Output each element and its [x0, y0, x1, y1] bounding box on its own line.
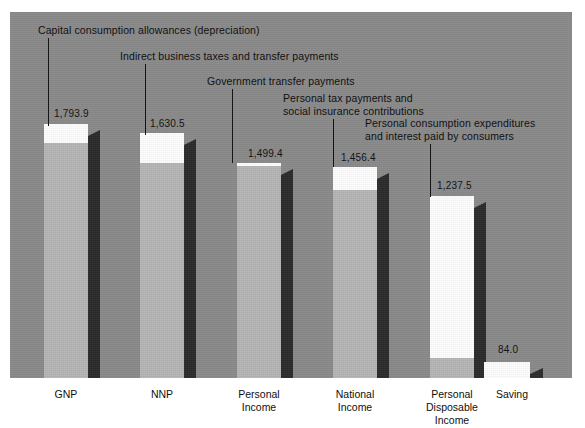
bar-personal-income-front-face [237, 163, 281, 378]
category-label-nnp: NNP [122, 388, 202, 401]
bar-saving-highlight-segment [484, 362, 530, 378]
category-label-nnp-line1: NNP [122, 388, 202, 401]
callout-personal-tax-payments: Personal tax payments and social insuran… [283, 92, 424, 117]
leader-line-government-transfer-payments [232, 89, 233, 163]
bar-national-income-highlight-segment [333, 167, 377, 190]
bar-nnp-side-face [184, 139, 196, 378]
bar-personal-disposable-income [430, 196, 474, 378]
leader-line-capital-consumption-allowances [48, 38, 49, 126]
callout-capital-consumption-allowances: Capital consumption allowances (deprecia… [38, 24, 260, 37]
value-label-personal-disposable-income: 1,237.5 [437, 180, 472, 191]
category-label-personal-disposable-income-line3: Income [410, 414, 494, 427]
chart-figure: 1,793.9 1,630.5 1,499.4 1,456.4 1,237.5 … [0, 0, 585, 428]
chart-plot-area: 1,793.9 1,630.5 1,499.4 1,456.4 1,237.5 … [10, 12, 572, 378]
leader-line-indirect-business-taxes [145, 64, 146, 135]
category-label-personal-income: Personal Income [219, 388, 299, 414]
value-label-nnp: 1,630.5 [150, 118, 185, 129]
bar-saving-side-face [530, 368, 543, 378]
bar-gnp-front-face [44, 124, 88, 378]
bar-national-income [333, 167, 377, 378]
bar-gnp-highlight-segment [44, 124, 88, 143]
category-label-national-income-line1: National [315, 388, 395, 401]
category-label-personal-income-line1: Personal [219, 388, 299, 401]
leader-line-personal-tax-payments [333, 119, 334, 167]
callout-indirect-business-taxes: Indirect business taxes and transfer pay… [120, 50, 339, 63]
bar-personal-income-highlight-segment [237, 163, 281, 166]
callout-personal-consumption-expenditures-line1: Personal consumption expenditures [365, 117, 535, 130]
callout-personal-consumption-expenditures-line2: and interest paid by consumers [365, 130, 535, 143]
bar-nnp-highlight-segment [140, 133, 184, 163]
callout-indirect-business-taxes-line1: Indirect business taxes and transfer pay… [120, 50, 339, 63]
bar-saving [484, 362, 530, 378]
callout-personal-consumption-expenditures: Personal consumption expenditures and in… [365, 117, 535, 142]
bar-personal-disposable-income-side-face [474, 202, 486, 378]
callout-government-transfer-payments: Government transfer payments [207, 75, 355, 88]
value-label-personal-income: 1,499.4 [248, 148, 283, 159]
bar-nnp [140, 133, 184, 378]
callout-personal-tax-payments-line1: Personal tax payments and [283, 92, 424, 105]
value-label-gnp: 1,793.9 [54, 108, 89, 119]
bar-gnp-side-face [88, 130, 100, 378]
category-label-gnp: GNP [26, 388, 106, 401]
bar-personal-income [237, 163, 281, 378]
bar-personal-disposable-income-highlight-segment [430, 196, 474, 358]
bar-nnp-front-face [140, 133, 184, 378]
value-label-national-income: 1,456.4 [341, 152, 376, 163]
bar-national-income-side-face [377, 173, 389, 378]
category-label-personal-income-line2: Income [219, 401, 299, 414]
callout-capital-consumption-allowances-line1: Capital consumption allowances (deprecia… [38, 24, 260, 37]
category-label-national-income: National Income [315, 388, 395, 414]
bar-personal-income-side-face [281, 169, 293, 378]
callout-personal-tax-payments-line2: social insurance contributions [283, 105, 424, 118]
bar-gnp [44, 124, 88, 378]
category-label-gnp-line1: GNP [26, 388, 106, 401]
leader-line-personal-consumption-expenditures [430, 144, 431, 197]
category-label-saving: Saving [472, 388, 552, 401]
value-label-saving: 84.0 [498, 344, 518, 355]
bar-national-income-front-face [333, 167, 377, 378]
category-label-national-income-line2: Income [315, 401, 395, 414]
callout-government-transfer-payments-line1: Government transfer payments [207, 75, 355, 88]
category-label-personal-disposable-income-line2: Disposable [410, 401, 494, 414]
category-label-saving-line1: Saving [472, 388, 552, 401]
